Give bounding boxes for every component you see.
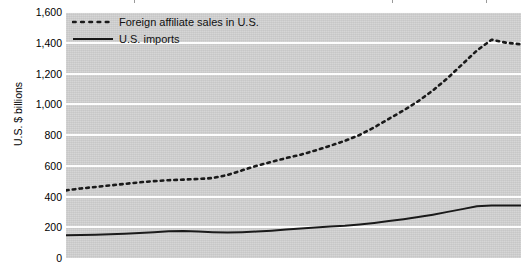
y-axis-tick-label: 800 (2, 130, 62, 141)
legend-label-foreign-affiliate-sales: Foreign affiliate sales in U.S. (119, 16, 259, 28)
top-tick-mark (486, 0, 487, 3)
y-axis-tick-label: 0 (2, 253, 62, 264)
y-axis-tick-label: 1,000 (2, 99, 62, 110)
top-tick-mark (392, 0, 393, 3)
solid-line-icon (72, 33, 114, 45)
line-chart: U.S. $ billions 02004006008001,0001,2001… (0, 0, 521, 274)
y-axis-tick-labels: 02004006008001,0001,2001,4001,600 (0, 0, 62, 274)
series-line-foreign-affiliate-sales (66, 40, 521, 191)
y-axis-tick-label: 400 (2, 191, 62, 202)
series-line-us-imports (66, 205, 521, 235)
series-canvas (66, 12, 521, 258)
dotted-line-icon (72, 16, 114, 28)
legend-label-us-imports: U.S. imports (119, 33, 180, 45)
chart-legend: Foreign affiliate sales in U.S. U.S. imp… (72, 14, 259, 48)
y-axis-tick-label: 1,400 (2, 37, 62, 48)
top-tick-mark (134, 0, 135, 3)
legend-item-foreign-affiliate-sales: Foreign affiliate sales in U.S. (72, 14, 259, 30)
y-axis-tick-label: 1,600 (2, 7, 62, 18)
y-axis-tick-label: 1,200 (2, 68, 62, 79)
y-axis-tick-label: 600 (2, 160, 62, 171)
plot-area: Foreign affiliate sales in U.S. U.S. imp… (66, 12, 521, 258)
y-axis-tick-label: 200 (2, 222, 62, 233)
legend-item-us-imports: U.S. imports (72, 31, 259, 47)
